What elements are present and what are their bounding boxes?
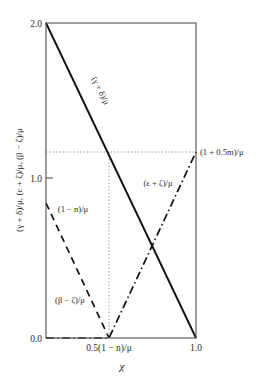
x-tick-label-right: 1.0: [190, 343, 202, 353]
chart-canvas: 2.0 1.0 0.0 0.5(1 − n)/μ 1.0 χ (γ + δ)/μ…: [0, 0, 268, 380]
y-axis-title: (γ + δ)/μ, (ε + ζ)/μ, (β − ζ)/μ: [14, 128, 24, 232]
chart-figure: 2.0 1.0 0.0 0.5(1 − n)/μ 1.0 χ (γ + δ)/μ…: [0, 0, 268, 380]
y-tick-label-top: 2.0: [30, 19, 42, 29]
chart-background: [0, 0, 268, 380]
curve-label-one-minus-n: (1 − n)/μ: [58, 204, 89, 214]
x-tick-label-mid: 0.5(1 − n)/μ: [86, 343, 132, 354]
curve-label-beta-zeta: (β − ζ)/μ: [55, 295, 85, 305]
y-tick-label-bottom: 0.0: [30, 334, 42, 344]
curve-label-epsilon-zeta: (ε + ζ)/μ: [143, 178, 172, 188]
y-tick-label-mid: 1.0: [30, 174, 42, 184]
endpoint-label-right: (1 + 0.5m)/μ: [200, 147, 244, 157]
